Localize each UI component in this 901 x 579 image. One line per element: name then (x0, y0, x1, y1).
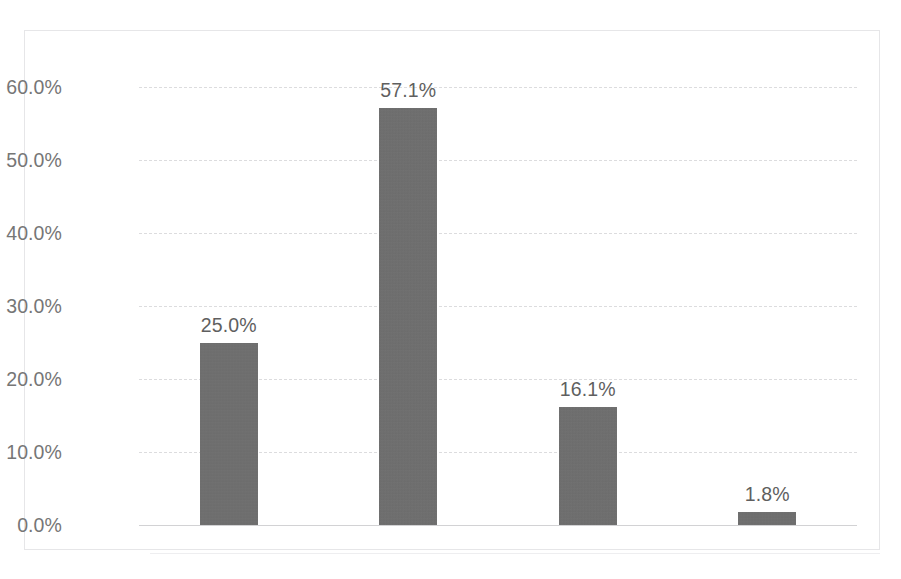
plot-area: 60.0%50.0%40.0%30.0%20.0%10.0%0.0% 25.0%… (139, 87, 857, 525)
chart-frame: 60.0%50.0%40.0%30.0%20.0%10.0%0.0% 25.0%… (24, 30, 880, 550)
bar-group[interactable]: 25.0% (139, 87, 319, 525)
bar-group[interactable]: 16.1% (498, 87, 678, 525)
bar[interactable] (738, 512, 796, 525)
y-axis-tick-label: 10.0% (0, 441, 62, 464)
chart-screenshot: 60.0%50.0%40.0%30.0%20.0%10.0%0.0% 25.0%… (0, 0, 901, 579)
bar-data-label: 1.8% (745, 483, 790, 506)
y-axis-tick-label: 20.0% (0, 368, 62, 391)
bar-group[interactable]: 1.8% (678, 87, 858, 525)
axis-baseline (139, 525, 857, 526)
y-axis-tick-label: 0.0% (0, 514, 62, 537)
bar[interactable] (379, 108, 437, 525)
bar[interactable] (559, 407, 617, 525)
bar[interactable] (200, 343, 258, 526)
scan-artifact-line (150, 553, 880, 554)
bar-data-label: 16.1% (560, 378, 616, 401)
bar-data-label: 25.0% (201, 314, 257, 337)
y-axis-tick-label: 50.0% (0, 149, 62, 172)
y-axis-tick-label: 30.0% (0, 295, 62, 318)
y-axis-tick-label: 60.0% (0, 76, 62, 99)
bar-series: 25.0%57.1%16.1%1.8% (139, 87, 857, 525)
bar-group[interactable]: 57.1% (319, 87, 499, 525)
y-axis-tick-label: 40.0% (0, 222, 62, 245)
bar-data-label: 57.1% (380, 79, 436, 102)
